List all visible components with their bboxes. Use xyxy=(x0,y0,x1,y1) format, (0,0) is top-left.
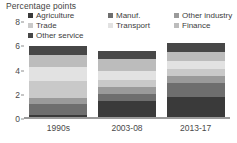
bar-segment-manuf[interactable] xyxy=(167,83,225,97)
x-tick-label: 2013-17 xyxy=(180,123,211,134)
y-tick-label: 4 xyxy=(15,66,20,75)
legend-item-manuf[interactable]: Manuf. xyxy=(108,11,172,20)
bar-series-container xyxy=(24,22,230,119)
y-tick-label: 0 xyxy=(15,115,20,124)
bar-stack xyxy=(98,51,156,119)
y-tick-label: 2 xyxy=(15,90,20,99)
x-tick-label: 2003-08 xyxy=(111,123,142,134)
chart-title: Percentage points xyxy=(6,1,76,11)
legend-item-label: Agriculture xyxy=(36,11,74,20)
legend-swatch-icon xyxy=(28,13,33,18)
bar-segment-finance[interactable] xyxy=(167,52,225,60)
legend-item-agriculture[interactable]: Agriculture xyxy=(28,11,100,20)
bar-segment-transport[interactable] xyxy=(98,71,156,80)
bar-group-1990s[interactable] xyxy=(29,22,87,119)
bar-segment-other-service[interactable] xyxy=(167,43,225,53)
legend-item-other-industry[interactable]: Other industry xyxy=(174,11,236,20)
bar-segment-manuf[interactable] xyxy=(98,94,156,101)
bar-segment-other-service[interactable] xyxy=(29,46,87,54)
bar-segment-trade[interactable] xyxy=(98,80,156,87)
bar-segment-manuf[interactable] xyxy=(29,104,87,114)
bar-segment-other-industry[interactable] xyxy=(167,76,225,83)
bar-segment-transport[interactable] xyxy=(29,67,87,81)
y-tick-label: 8 xyxy=(15,18,20,27)
x-axis-line xyxy=(24,117,230,119)
bar-group-2013-17[interactable] xyxy=(167,22,225,119)
bar-segment-finance[interactable] xyxy=(29,55,87,67)
bar-stack xyxy=(167,43,225,119)
bar-segment-finance[interactable] xyxy=(98,59,156,71)
y-gridline: 0 xyxy=(24,119,230,120)
bar-segment-other-service[interactable] xyxy=(98,51,156,59)
bar-group-2003-08[interactable] xyxy=(98,22,156,119)
bar-segment-trade[interactable] xyxy=(167,69,225,76)
bar-segment-agriculture[interactable] xyxy=(167,97,225,119)
bar-segment-transport[interactable] xyxy=(167,61,225,69)
legend-swatch-icon xyxy=(174,13,179,18)
y-tick-label: 6 xyxy=(15,42,20,51)
x-tick-label: 1990s xyxy=(47,123,70,134)
plot-area: 02468 xyxy=(24,22,230,119)
bar-segment-other-industry[interactable] xyxy=(29,98,87,105)
legend-item-label: Other industry xyxy=(182,11,232,20)
legend-item-label: Manuf. xyxy=(116,11,140,20)
legend-swatch-icon xyxy=(108,13,113,18)
bar-stack xyxy=(29,46,87,119)
x-axis-labels: 1990s2003-082013-17 xyxy=(24,123,230,137)
bar-segment-trade[interactable] xyxy=(29,81,87,98)
chart-figure: Percentage points AgricultureTradeOther … xyxy=(0,0,237,143)
bar-segment-other-industry[interactable] xyxy=(98,87,156,94)
